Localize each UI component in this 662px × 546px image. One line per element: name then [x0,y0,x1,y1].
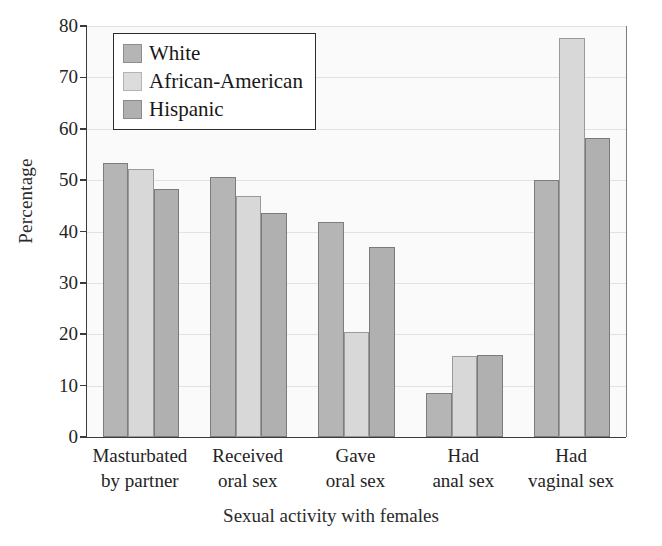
y-axis-tick [80,282,87,284]
legend-item: African-American [123,67,303,95]
legend-item-label: White [149,43,200,64]
y-axis-tick [80,128,87,130]
bar [534,180,560,437]
bar [261,213,287,437]
y-axis-tick-labels: 01020304050607080 [34,26,78,437]
y-axis-tick [80,385,87,387]
bar [585,138,611,437]
legend: WhiteAfrican-AmericanHispanic [113,33,316,130]
y-axis-tick-label: 10 [38,375,78,397]
y-axis-tick-label: 70 [38,66,78,88]
y-axis-tick-label: 50 [38,169,78,191]
y-axis-tick [80,77,87,79]
legend-item-label: Hispanic [149,99,224,120]
x-axis-title: Sexual activity with females [0,505,662,527]
bar [318,222,344,437]
bar [210,177,236,437]
bar [236,196,262,437]
y-axis-tick [80,179,87,181]
x-axis-group-labels: Masturbatedby partnerReceivedoral sexGav… [86,443,625,501]
legend-swatch-icon [123,100,142,119]
y-axis-tick-label: 40 [38,221,78,243]
x-axis-group-label-line: Had [447,445,479,466]
bar [103,163,129,437]
y-axis-tick [80,436,87,438]
legend-item: White [123,39,303,67]
bar [344,332,370,437]
y-axis-tick-label: 60 [38,118,78,140]
bar [128,169,154,437]
bar [559,38,585,437]
x-axis-group-label-line: vaginal sex [476,468,662,493]
x-axis-group-label: Hadvaginal sex [476,443,662,493]
y-axis-tick-label: 20 [38,323,78,345]
y-axis-tick [80,25,87,27]
legend-swatch-icon [123,72,142,91]
legend-item: Hispanic [123,95,303,123]
y-axis-tick [80,231,87,233]
bar [154,189,180,437]
legend-swatch-icon [123,44,142,63]
bar [426,393,452,437]
y-axis-tick [80,333,87,335]
bar [477,355,503,437]
y-axis-tick-label: 30 [38,272,78,294]
bar [452,356,478,437]
x-axis-group-label-line: Had [555,445,587,466]
bar [369,247,395,437]
gridline [87,26,626,27]
y-axis-tick-label: 80 [38,15,78,37]
legend-item-label: African-American [149,71,303,92]
bar-chart: Percentage 01020304050607080 Masturbated… [0,0,662,546]
